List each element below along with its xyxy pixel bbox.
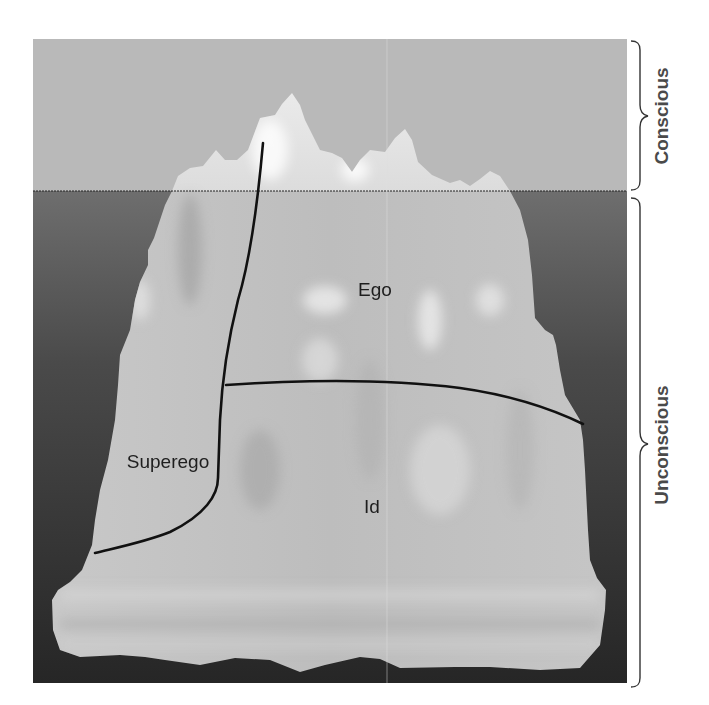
unconscious-bracket bbox=[631, 198, 648, 687]
iceberg-diagram: Ego Superego Id Conscious Unconscious bbox=[0, 0, 709, 705]
level-label-conscious: Conscious bbox=[651, 67, 673, 164]
conscious-bracket bbox=[631, 41, 648, 190]
region-label-ego: Ego bbox=[358, 279, 392, 301]
region-label-superego: Superego bbox=[127, 451, 209, 473]
region-label-id: Id bbox=[364, 496, 380, 518]
level-label-unconscious: Unconscious bbox=[651, 385, 673, 504]
iceberg-scene: Ego Superego Id bbox=[33, 39, 627, 683]
